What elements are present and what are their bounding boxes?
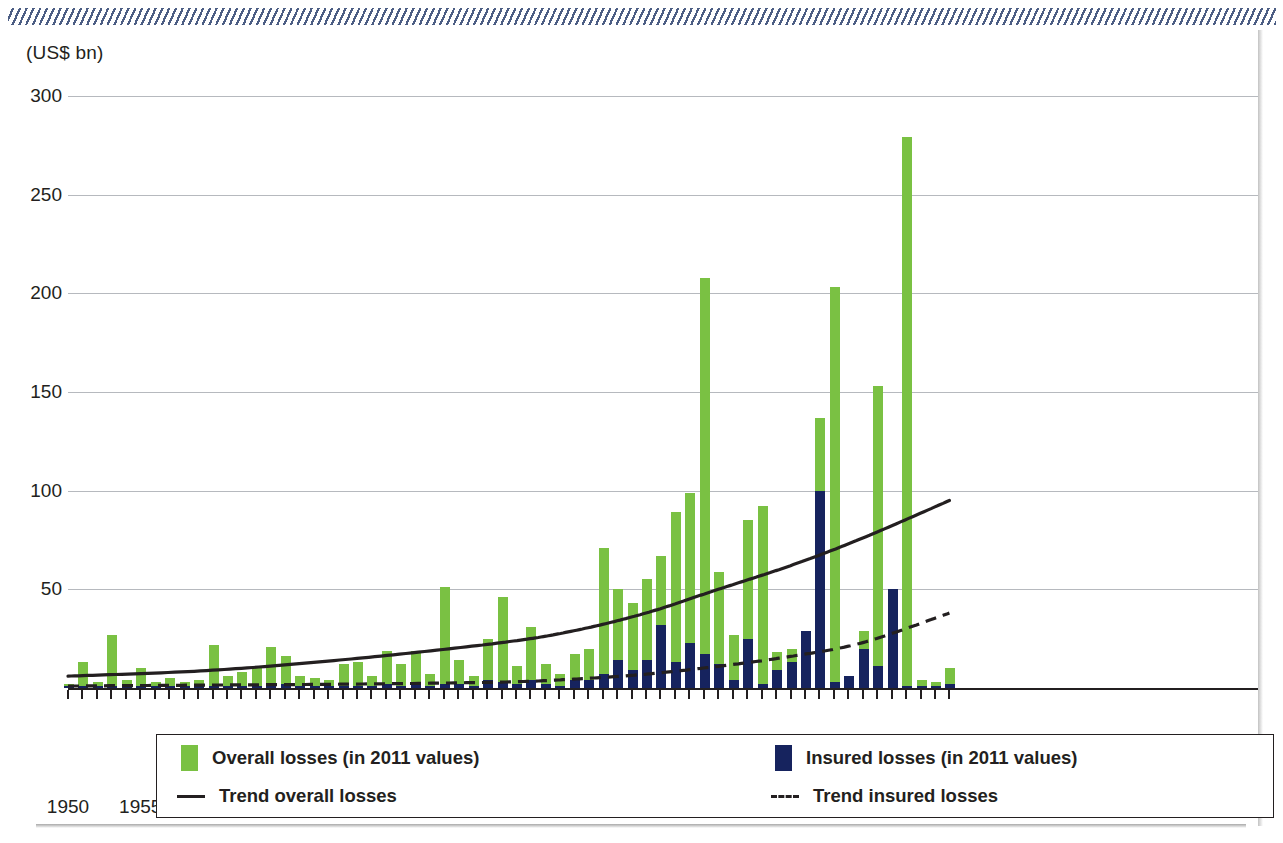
table-row [353, 662, 363, 688]
bar-segment-insured [685, 643, 695, 688]
table-row [526, 627, 536, 688]
x-tickmark-1995 [717, 690, 719, 699]
table-row [917, 680, 927, 688]
table-row [498, 597, 508, 688]
x-tickmark-1979 [486, 690, 488, 699]
bar-segment-insured [656, 625, 666, 688]
table-row [844, 676, 854, 688]
table-row [165, 678, 175, 688]
x-tickmark-1965 [284, 690, 286, 699]
dashed-line-icon [771, 795, 799, 798]
gridline-200 [68, 293, 1258, 294]
table-row [787, 649, 797, 688]
bar-segment-overall [396, 664, 406, 688]
x-tick-label-1950: 1950 [47, 796, 89, 818]
y-tick-label-300: 300 [30, 85, 62, 107]
table-row [483, 639, 493, 688]
x-tickmark-1991 [659, 690, 661, 699]
bar-segment-overall [353, 662, 363, 688]
bar-segment-overall [758, 506, 768, 688]
x-tickmark-1978 [472, 690, 474, 699]
table-row [324, 680, 334, 688]
bar-segment-insured [671, 662, 681, 688]
table-row [555, 674, 565, 688]
gridline-150 [68, 392, 1258, 393]
navy-square-icon [775, 745, 792, 771]
gridline-300 [68, 96, 1258, 97]
bar-segment-overall [873, 386, 883, 688]
table-row [454, 660, 464, 688]
bar-segment-insured [584, 680, 594, 688]
chart-root: (US$ bn) 30025020015010050 1950195519601… [0, 0, 1283, 843]
page-right-shadow [1258, 30, 1263, 826]
x-tickmark-1996 [732, 690, 734, 699]
x-tickmark-1962 [240, 690, 242, 699]
x-tickmark-2001 [804, 690, 806, 699]
legend-label-trend-insured: Trend insured losses [813, 785, 998, 807]
x-tickmark-1950 [67, 690, 69, 699]
bar-segment-overall [252, 666, 262, 688]
table-row [122, 680, 132, 688]
x-tickmark-2008 [905, 690, 907, 699]
legend-item-insured-losses[interactable]: Insured losses (in 2011 values) [775, 737, 1077, 779]
table-row [367, 676, 377, 688]
x-tickmark-1990 [645, 690, 647, 699]
x-tickmark-1994 [703, 690, 705, 699]
x-tickmark-1952 [96, 690, 98, 699]
table-row [902, 137, 912, 688]
table-row [295, 676, 305, 688]
x-tickmark-1985 [573, 690, 575, 699]
bar-segment-overall [599, 548, 609, 688]
bar-segment-insured [801, 631, 811, 688]
x-tickmark-2000 [790, 690, 792, 699]
x-tickmark-1968 [327, 690, 329, 699]
x-tickmark-2007 [891, 690, 893, 699]
bar-segment-overall [700, 278, 710, 688]
table-row [382, 651, 392, 688]
legend-item-overall-losses[interactable]: Overall losses (in 2011 values) [181, 737, 479, 779]
table-row [339, 664, 349, 688]
bar-segment-overall [382, 651, 392, 688]
x-tickmark-2006 [876, 690, 878, 699]
table-row [671, 512, 681, 688]
x-tickmark-2002 [818, 690, 820, 699]
table-row [714, 572, 724, 688]
x-tickmark-1956 [154, 690, 156, 699]
table-row [541, 664, 551, 688]
table-row [656, 556, 666, 688]
y-tick-label-50: 50 [41, 578, 62, 600]
table-row [136, 668, 146, 688]
table-row [78, 662, 88, 688]
x-tickmark-1980 [501, 690, 503, 699]
bar-segment-insured [714, 664, 724, 688]
table-row [223, 676, 233, 688]
table-row [815, 418, 825, 688]
bar-segment-insured [743, 639, 753, 688]
x-tickmark-1972 [385, 690, 387, 699]
x-tickmark-1986 [587, 690, 589, 699]
y-tick-label-200: 200 [30, 282, 62, 304]
bar-segment-insured [570, 680, 580, 688]
x-tickmark-1969 [342, 690, 344, 699]
bar-segment-insured [888, 589, 898, 688]
x-tickmark-1992 [674, 690, 676, 699]
x-tickmark-2003 [833, 690, 835, 699]
table-row [830, 287, 840, 688]
x-tickmark-1981 [515, 690, 517, 699]
gridline-100 [68, 491, 1258, 492]
table-row [700, 278, 710, 688]
x-tickmark-1961 [226, 690, 228, 699]
bar-segment-overall [498, 597, 508, 688]
table-row [209, 645, 219, 688]
table-row [107, 635, 117, 688]
bar-segment-overall [209, 645, 219, 688]
legend-item-trend-overall[interactable]: Trend overall losses [177, 775, 397, 817]
legend-row-series: Overall losses (in 2011 values) Insured … [157, 737, 1273, 779]
x-tickmark-1955 [139, 690, 141, 699]
x-tickmark-1987 [602, 690, 604, 699]
table-row [469, 676, 479, 688]
bar-segment-insured [844, 676, 854, 688]
x-tickmark-1975 [428, 690, 430, 699]
x-tickmark-1982 [529, 690, 531, 699]
legend-item-trend-insured[interactable]: Trend insured losses [771, 775, 998, 817]
